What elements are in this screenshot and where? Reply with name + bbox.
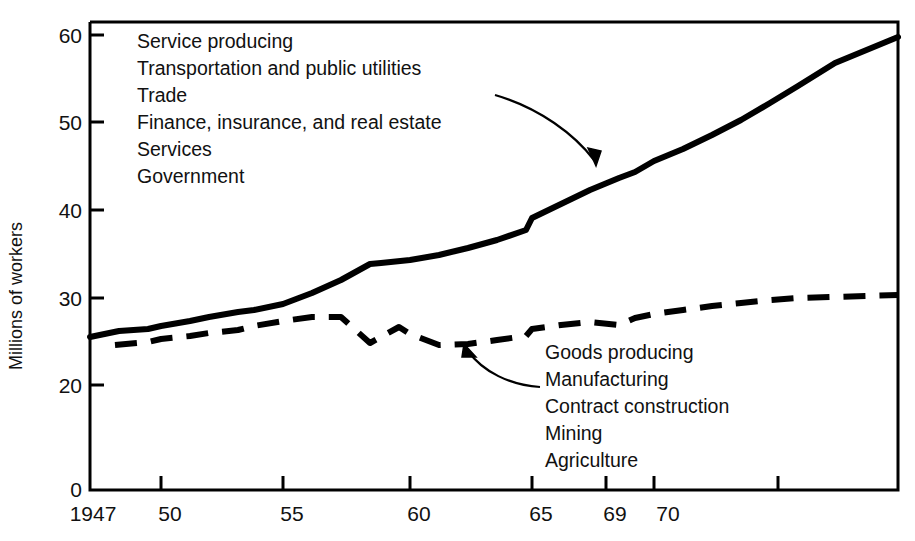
series-line-service-producing xyxy=(90,37,898,337)
x-tick-label-1955: 55 xyxy=(280,502,303,525)
x-tick-label-1947: 1947 xyxy=(70,502,117,525)
y-tick-label-40: 40 xyxy=(59,199,82,222)
legend-line-goods-producing-0: Goods producing xyxy=(545,341,694,363)
x-tick-label-1965: 65 xyxy=(529,502,552,525)
x-axis-tick-labels: 1947 50 55 60 65 69 70 xyxy=(70,502,680,525)
legend-line-goods-producing-2: Contract construction xyxy=(545,395,729,417)
legend-line-service-producing-1: Transportation and public utilities xyxy=(137,57,422,79)
x-tick-label-1960: 60 xyxy=(407,502,430,525)
chart-figure: 60 50 40 30 20 0 1947 50 55 60 65 69 70 xyxy=(0,0,915,541)
legend-line-service-producing-3: Finance, insurance, and real estate xyxy=(137,111,442,133)
x-tick-label-1970: 70 xyxy=(656,502,679,525)
goods-producing-leader xyxy=(462,344,540,387)
x-tick-label-1950: 50 xyxy=(158,502,181,525)
y-tick-label-20: 20 xyxy=(59,374,82,397)
x-tick-label-1969: 69 xyxy=(603,502,626,525)
service-producing-legend: Service producing Transportation and pub… xyxy=(137,30,442,187)
y-tick-label-60: 60 xyxy=(59,24,82,47)
chart-canvas: 60 50 40 30 20 0 1947 50 55 60 65 69 70 xyxy=(0,0,915,541)
legend-line-service-producing-2: Trade xyxy=(137,84,187,106)
service-producing-leader xyxy=(495,95,601,166)
plot-frame xyxy=(90,22,898,490)
legend-line-goods-producing-1: Manufacturing xyxy=(545,368,669,390)
axis-border xyxy=(90,22,898,490)
y-tick-label-50: 50 xyxy=(59,111,82,134)
y-axis-tick-labels: 60 50 40 30 20 0 xyxy=(59,24,82,501)
series-line-goods-producing xyxy=(115,295,898,345)
y-tick-label-0: 0 xyxy=(70,478,82,501)
legend-line-service-producing-4: Services xyxy=(137,138,212,160)
legend-line-service-producing-0: Service producing xyxy=(137,30,293,52)
goods-producing-legend: Goods producing Manufacturing Contract c… xyxy=(545,341,729,471)
legend-line-goods-producing-3: Mining xyxy=(545,422,602,444)
y-tick-label-30: 30 xyxy=(59,287,82,310)
legend-line-service-producing-5: Government xyxy=(137,165,245,187)
x-axis-ticks xyxy=(161,476,778,490)
legend-line-goods-producing-4: Agriculture xyxy=(545,449,638,471)
y-axis-title: Millions of workers xyxy=(6,222,26,370)
